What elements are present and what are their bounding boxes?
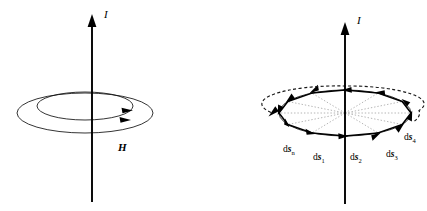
ds-2-sub: 2 [358, 157, 361, 164]
ds-3-sub: 3 [394, 154, 397, 161]
figure-background [0, 0, 427, 211]
field-H-label: H [117, 141, 127, 153]
physics-figure: I H [0, 0, 427, 211]
ds-1-sub: 1 [321, 157, 324, 164]
